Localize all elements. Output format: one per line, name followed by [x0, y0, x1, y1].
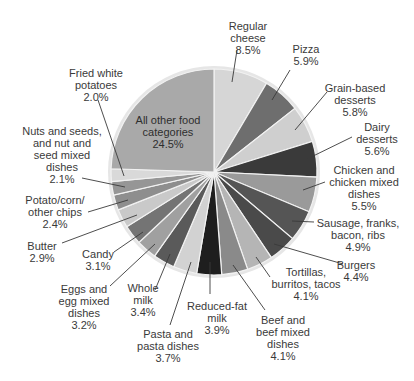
slice-label: Beef and beef mixed dishes 4.1% [256, 314, 310, 362]
slice-label: Nuts and seeds, and nut and seed mixed d… [22, 125, 102, 185]
slice-label: Pizza 5.9% [293, 43, 320, 67]
slice-label: Burgers 4.4% [337, 259, 376, 283]
slice-label: Sausage, franks, bacon, ribs 4.9% [317, 217, 400, 253]
slice-label: Potato/corn/ other chips 2.4% [25, 194, 84, 230]
slice-label: Fried white potatoes 2.0% [69, 67, 123, 103]
slice-label: Tortillas, burritos, tacos 4.1% [271, 266, 340, 302]
slice-label: Pasta and pasta dishes 3.7% [137, 328, 199, 364]
slice-label: Butter 2.9% [27, 240, 56, 264]
slice-label: Whole milk 3.4% [127, 282, 158, 318]
slice-label: All other food categories 24.5% [136, 114, 201, 150]
slice-label: Candy 3.1% [82, 248, 114, 272]
slice-label: Dairy desserts 5.6% [356, 121, 398, 157]
slice-label: Chicken and chicken mixed dishes 5.5% [329, 164, 399, 212]
pie-slices [108, 66, 320, 278]
slice-label: Regular cheese 8.5% [229, 20, 268, 56]
slice-label: Grain-based desserts 5.8% [325, 82, 386, 118]
slice-label: Eggs and egg mixed dishes 3.2% [59, 283, 110, 331]
